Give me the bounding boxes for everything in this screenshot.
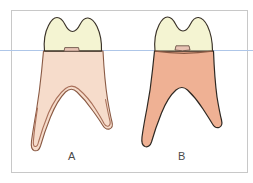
tooth-comparison-figure: A B [0,0,253,183]
tooth-b-cervical-notch [175,46,190,51]
tooth-a-cervical-notch [64,48,79,52]
tooth-a-label: A [68,150,76,162]
tooth-b-label: B [178,150,186,162]
diagram-canvas: A B [0,0,253,183]
